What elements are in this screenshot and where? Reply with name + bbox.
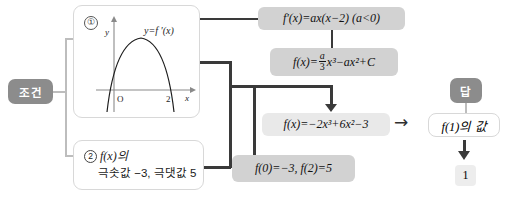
step-derivative-box: f′(x)=ax(x−2) (a<0) (258, 7, 405, 30)
graph-y-axis-label: y (104, 27, 109, 37)
connector-condition-vertical (65, 38, 67, 156)
step-antiderivative-lhs: f(x)= (293, 55, 318, 70)
step-antiderivative-rhs: x³−ax²+C (327, 55, 375, 70)
connector-conditions-bracket-bottom (204, 166, 231, 169)
arrowhead-down-to-result (325, 104, 337, 112)
step-derivative-text: f′(x)=ax(x−2) (a<0) (283, 11, 380, 26)
fraction-denominator: 3 (319, 62, 326, 72)
answer-question-text: f(1)의 값 (441, 116, 486, 135)
step-antiderivative-fraction: a3 (319, 51, 326, 72)
answer-badge: 답 (450, 78, 482, 103)
step-values-text: f(0)=−3, f(2)=5 (255, 161, 332, 176)
condition-2-marker: 2 (84, 150, 97, 163)
connector-box1-to-derivative (200, 18, 258, 20)
condition-2-text: 2f(x)의 극솟값 −3, 극댓값 5 (84, 148, 196, 182)
graph-origin-label: O (117, 94, 124, 104)
connector-condition-stem (52, 91, 66, 93)
final-answer-box: 1 (455, 165, 476, 186)
graph-x-axis-label: x (184, 93, 189, 103)
answer-badge-label: 답 (460, 83, 472, 99)
graph-curve-label: y=f ′(x) (143, 25, 174, 37)
connector-derivative-to-antiderivative (331, 30, 333, 48)
arrowhead-down-to-value (458, 151, 470, 160)
graph-x-tick-label: 2 (166, 94, 171, 104)
connector-answer-badge-to-question (465, 102, 467, 113)
step-antiderivative-box: f(x)=a3x³−ax²+C (270, 48, 398, 76)
arrow-result-to-answer: → (394, 114, 408, 131)
connector-conditions-bracket-top (200, 61, 231, 64)
answer-question-box: f(1)의 값 (428, 113, 500, 137)
derivative-graph: y x O 2 y=f ′(x) (74, 6, 199, 117)
step-result-text: f(x)=−2x³+6x²−3 (284, 117, 369, 132)
condition-2-line1: f(x)의 (100, 149, 128, 163)
condition-card-1: ① y x O 2 y=f ′(x) (73, 5, 200, 118)
condition-card-2: 2f(x)의 극솟값 −3, 극댓값 5 (73, 140, 204, 190)
connector-values-horizontal (253, 85, 331, 88)
condition-2-line2: 극솟값 −3, 극댓값 5 (84, 165, 196, 182)
condition-badge: 조건 (8, 79, 53, 104)
flowchart-diagram: 조건 답 ① y x O 2 y=f ′(x) 2f(x)의 극솟값 −3, 극… (0, 0, 514, 206)
final-answer-value: 1 (463, 168, 469, 183)
condition-badge-label: 조건 (19, 84, 42, 100)
step-values-box: f(0)=−3, f(2)=5 (232, 155, 355, 182)
connector-antiderivative-down (330, 85, 333, 106)
connector-conditions-bracket-vertical (229, 61, 232, 168)
step-result-box: f(x)=−2x³+6x²−3 (262, 113, 390, 136)
connector-into-result-arrow (231, 85, 255, 88)
